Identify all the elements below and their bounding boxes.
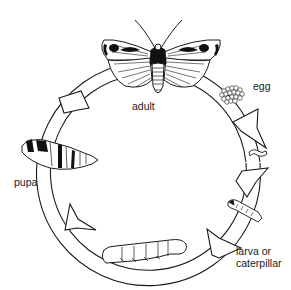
cycle-arrows (59, 91, 268, 258)
caterpillar-illustration (102, 240, 186, 264)
arrow-egg-to-larva-1 (233, 109, 266, 148)
label-egg: egg (253, 80, 271, 92)
label-larva-line1: larva or (236, 245, 282, 257)
adult-moth-illustration (102, 20, 221, 93)
pupa-illustration (22, 139, 98, 169)
label-larva-line2: caterpillar (236, 257, 282, 269)
arrow-pupa-to-adult (59, 91, 89, 113)
label-pupa: pupa (14, 176, 37, 188)
arrow-egg-to-larva-2 (236, 168, 268, 197)
label-adult: adult (132, 100, 155, 112)
label-larva: larva or caterpillar (236, 245, 282, 269)
small-larva-illustration (249, 150, 267, 157)
arrow-larva-to-pupa (65, 204, 96, 230)
egg-cluster-illustration (220, 86, 245, 105)
